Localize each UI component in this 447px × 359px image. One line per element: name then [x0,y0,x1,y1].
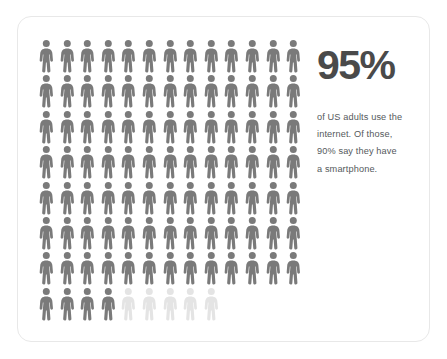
person-icon-filled [160,250,181,285]
person-icon-filled [263,144,284,179]
person-icon-filled [57,109,78,144]
person-icon-filled [160,109,181,144]
person-icon-filled [139,38,160,73]
person-icon-filled [201,144,222,179]
person-icon-filled [118,180,139,215]
person-icon-filled [98,144,119,179]
stat-description-line-4: a smartphone. [317,161,421,178]
person-icon-filled [98,38,119,73]
person-icon-filled [77,215,98,250]
person-icon-filled [77,180,98,215]
person-icon-filled [57,73,78,108]
person-icon-filled [263,215,284,250]
person-icon-filled [139,144,160,179]
person-icon-filled [221,215,242,250]
person-icon-filled [283,109,304,144]
person-icon-filled [180,215,201,250]
stat-description-line-1: of US adults use the [317,109,421,126]
person-icon-filled [36,38,57,73]
person-icon-filled [36,250,57,285]
person-icon-filled [201,180,222,215]
person-icon-filled [283,73,304,108]
person-icon-filled [77,73,98,108]
person-icon-filled [36,109,57,144]
person-icon-filled [118,250,139,285]
person-icon-filled [118,38,139,73]
person-icon-filled [263,109,284,144]
person-icon-empty [160,286,181,321]
person-icon-filled [263,38,284,73]
person-icon-filled [221,109,242,144]
stat-text-panel: 95% of US adults use theinternet. Of tho… [317,45,421,178]
person-icon-filled [139,250,160,285]
person-icon-filled [242,250,263,285]
person-icon-filled [242,38,263,73]
person-icon-filled [139,73,160,108]
person-icon-filled [283,180,304,215]
person-icon-filled [263,250,284,285]
person-icon-filled [263,180,284,215]
person-icon-filled [57,180,78,215]
person-icon-filled [242,73,263,108]
person-icon-filled [180,250,201,285]
person-icon-filled [98,109,119,144]
stat-description-line-3: 90% say they have [317,143,421,160]
person-icon-filled [221,250,242,285]
person-icon-filled [77,38,98,73]
person-icon-filled [77,144,98,179]
person-icon-filled [180,73,201,108]
person-icon-filled [57,38,78,73]
person-icon-filled [57,144,78,179]
person-icon-filled [139,109,160,144]
person-icon-filled [201,250,222,285]
person-icon-filled [57,250,78,285]
person-icon-filled [242,144,263,179]
person-icon-filled [283,144,304,179]
person-icon-filled [201,38,222,73]
person-icon-filled [57,286,78,321]
person-icon-filled [77,286,98,321]
person-icon-filled [242,180,263,215]
person-icon-filled [118,109,139,144]
person-icon-filled [201,73,222,108]
person-icon-filled [160,180,181,215]
person-icon-filled [77,109,98,144]
person-icon-filled [118,73,139,108]
person-icon-filled [139,215,160,250]
person-icon-filled [36,286,57,321]
person-icon-filled [180,109,201,144]
person-icon-filled [98,73,119,108]
person-icon-filled [221,73,242,108]
person-icon-empty [180,286,201,321]
pictogram-grid [36,38,306,321]
stat-description-line-2: internet. Of those, [317,126,421,143]
person-icon-filled [77,250,98,285]
person-icon-filled [160,73,181,108]
person-icon-filled [160,215,181,250]
person-icon-filled [283,38,304,73]
person-icon-filled [98,286,119,321]
person-icon-filled [36,73,57,108]
person-icon-filled [160,144,181,179]
person-icon-filled [201,109,222,144]
person-icon-empty [139,286,160,321]
person-icon-filled [283,250,304,285]
person-icon-empty [118,286,139,321]
person-icon-filled [139,180,160,215]
person-icon-filled [160,38,181,73]
person-icon-filled [36,144,57,179]
person-icon-filled [283,215,304,250]
person-icon-filled [36,180,57,215]
stat-headline: 95% [317,45,421,86]
person-icon-filled [180,38,201,73]
person-icon-filled [242,109,263,144]
person-icon-filled [180,144,201,179]
infographic-card: 95% of US adults use theinternet. Of tho… [17,16,430,342]
person-icon-filled [118,215,139,250]
person-icon-filled [180,180,201,215]
person-icon-filled [36,215,57,250]
person-icon-filled [118,144,139,179]
person-icon-empty [201,286,222,321]
person-icon-filled [98,180,119,215]
person-icon-filled [98,250,119,285]
